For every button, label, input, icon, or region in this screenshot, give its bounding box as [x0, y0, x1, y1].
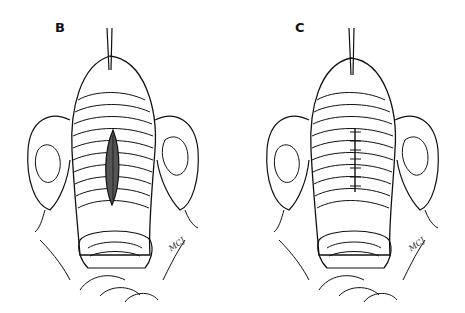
- uterus-sutured-illustration: [233, 0, 465, 313]
- uterus-incision-illustration: [0, 0, 232, 313]
- panel-c: C: [233, 0, 465, 313]
- panel-b: B: [0, 0, 232, 313]
